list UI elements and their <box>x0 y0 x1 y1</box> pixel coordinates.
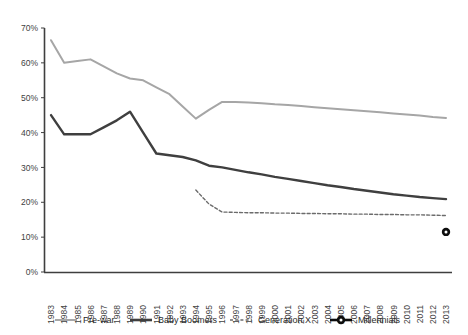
x-tick-label: 1996 <box>217 305 227 324</box>
series-marker-center <box>445 230 448 233</box>
x-tick-label: 1985 <box>73 305 83 324</box>
legend-label-millennials: Millennials <box>358 315 401 325</box>
y-tick-label: 20% <box>21 197 38 207</box>
chart-background <box>0 0 468 335</box>
y-tick-label: 50% <box>21 93 38 103</box>
x-tick-label: 1983 <box>46 305 56 324</box>
x-tick-label: 1984 <box>59 305 69 324</box>
chart-container: 0%10%20%30%40%50%60%70% 1983198419851986… <box>0 0 468 335</box>
legend-marker-center <box>340 319 343 322</box>
x-tick-label: 2012 <box>428 305 438 324</box>
legend-item-millennials[interactable]: Millennials <box>330 315 401 325</box>
x-tick-label: 2011 <box>415 305 425 324</box>
x-tick-label: 2013 <box>441 305 451 324</box>
x-tick-label: 1997 <box>231 305 241 324</box>
y-tick-label: 60% <box>21 58 38 68</box>
legend-label-baby-boomers: Baby Boomers <box>158 315 218 325</box>
x-tick-label: 1998 <box>244 305 254 324</box>
y-tick-label: 30% <box>21 163 38 173</box>
y-tick-label: 70% <box>21 23 38 33</box>
x-tick-label: 2010 <box>402 305 412 324</box>
y-tick-label: 0% <box>26 267 39 277</box>
generation-homeownership-line-chart: 0%10%20%30%40%50%60%70% 1983198419851986… <box>0 0 468 335</box>
y-tick-label: 10% <box>21 232 38 242</box>
legend-label-generation-x: Generation X <box>258 315 311 325</box>
legend-label-pre-war: Pre-war <box>83 315 115 325</box>
y-tick-label: 40% <box>21 128 38 138</box>
